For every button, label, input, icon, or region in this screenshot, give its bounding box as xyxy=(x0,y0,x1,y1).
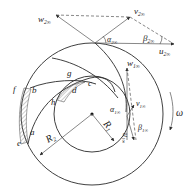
label-r2: R2 xyxy=(43,131,58,146)
blade-bc xyxy=(30,81,96,88)
alpha2-arc xyxy=(103,36,106,43)
label-a: a xyxy=(30,127,35,137)
label-w2: w2∞ xyxy=(38,14,51,25)
label-beta2: β2∞ xyxy=(142,33,154,44)
label-r1: R1 xyxy=(100,117,116,132)
rotation-arrow xyxy=(170,92,173,130)
label-c: c xyxy=(88,78,92,88)
impeller-diagram: f b g c d h a e R1 R2 w2∞ v2∞ u2∞ α2∞ β2… xyxy=(0,0,190,194)
label-h: h xyxy=(51,97,56,107)
label-v1: v1∞ xyxy=(136,99,146,109)
label-e: e xyxy=(17,138,21,148)
beta2-arc xyxy=(160,36,162,44)
label-alpha2: α2∞ xyxy=(107,35,118,45)
label-f: f xyxy=(13,84,17,94)
label-u2: u2∞ xyxy=(159,46,170,57)
label-omega: ω xyxy=(176,107,183,118)
label-g: g xyxy=(67,68,72,78)
label-u1: u1∞ xyxy=(121,133,131,144)
w2-v2-connector xyxy=(56,15,130,17)
blade-upper xyxy=(52,58,118,98)
label-beta1: β1∞ xyxy=(137,123,148,133)
label-alpha1: α1∞ xyxy=(110,105,121,115)
label-b: b xyxy=(32,85,37,95)
label-d: d xyxy=(72,85,77,95)
label-v2: v2∞ xyxy=(134,6,145,17)
w2-vector xyxy=(56,15,95,43)
